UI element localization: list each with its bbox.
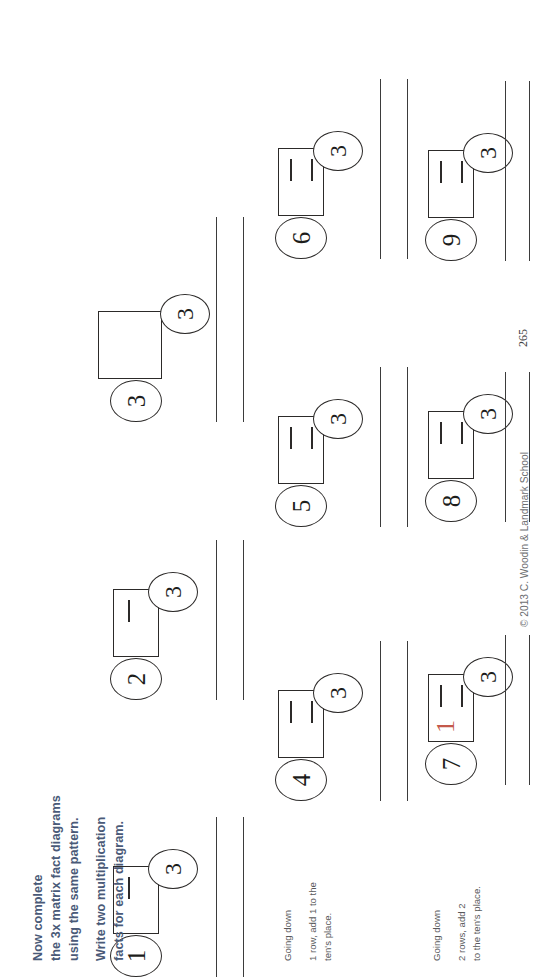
answer-line-1a[interactable]	[216, 817, 217, 977]
multiplier-value: 4	[289, 774, 314, 787]
note-row2: Going down 1 row, add 1 to the ten's pla…	[281, 811, 335, 961]
box-tick	[290, 427, 292, 449]
instruction-spacer	[84, 731, 93, 961]
multiplicand-circle-3: 3	[160, 294, 210, 334]
instruction-line-1: Now complete	[30, 731, 48, 961]
answer-line-5a[interactable]	[380, 367, 381, 527]
multiplicand-value: 3	[476, 408, 500, 420]
multiplier-value: 9	[439, 234, 464, 247]
multiplier-value: 8	[439, 495, 464, 508]
multiplicand-value: 3	[326, 145, 350, 157]
multiplier-value: 6	[289, 232, 314, 245]
multiplier-circle-8: 8	[425, 480, 477, 522]
multiplier-circle-7: 7	[425, 743, 477, 785]
multiplicand-circle-4: 3	[313, 673, 363, 713]
copyright-footer: © 2013 C. Woodin & Landmark School	[519, 452, 530, 627]
instruction-line-4: Write two multiplication	[93, 731, 111, 961]
answer-line-4b[interactable]	[407, 641, 408, 801]
answer-line-3b[interactable]	[243, 217, 244, 422]
box-tick	[440, 685, 442, 707]
note-row2-line-2: 1 row, add 1 to the	[306, 811, 320, 961]
answer-line-3a[interactable]	[216, 217, 217, 422]
box-tick	[128, 600, 130, 622]
answer-line-2b[interactable]	[243, 540, 244, 700]
multiplicand-circle-6: 3	[313, 131, 363, 171]
multiplier-value: 7	[439, 758, 464, 771]
page-number: 265	[516, 329, 531, 347]
multiplicand-value: 3	[326, 687, 350, 699]
box-tick	[461, 685, 463, 707]
multiplicand-value: 3	[326, 413, 350, 425]
answer-line-9a[interactable]	[505, 81, 506, 261]
note-row3-line-1: Going down	[430, 811, 444, 961]
note-row2-line-1: Going down	[281, 811, 295, 961]
multiplier-value: 2	[124, 673, 149, 686]
multiplier-value: 3	[124, 395, 149, 408]
multiplicand-value: 3	[161, 863, 185, 875]
multiplier-circle-2: 2	[110, 658, 162, 700]
note-row2-line-3: ten's place.	[321, 811, 335, 961]
box-tick	[290, 159, 292, 181]
box-tick	[461, 161, 463, 183]
answer-line-6b[interactable]	[407, 79, 408, 259]
answer-line-5b[interactable]	[407, 367, 408, 527]
note-row3-line-2: 2 rows, add 2	[455, 811, 469, 961]
answer-line-8a[interactable]	[505, 372, 506, 522]
multiplicand-circle-1: 3	[148, 849, 198, 889]
note-row3-line-3: to the ten's place.	[470, 811, 484, 961]
worksheet-page: 1 3 2 3 3 3 4 3 5	[0, 0, 544, 977]
instruction-line-2: the 3x matrix fact diagrams	[48, 731, 66, 961]
box-tick	[290, 701, 292, 723]
box-tick	[440, 422, 442, 444]
box-tick	[461, 422, 463, 444]
multiplier-circle-3: 3	[110, 380, 162, 422]
instruction-line-3: using the same pattern.	[66, 731, 84, 961]
answer-line-2a[interactable]	[216, 540, 217, 700]
answer-line-7b[interactable]	[529, 635, 530, 785]
instructions-block: Now complete the 3x matrix fact diagrams…	[30, 731, 128, 961]
answer-line-9b[interactable]	[529, 81, 530, 261]
answer-line-7a[interactable]	[505, 635, 506, 785]
note-row3: Going down 2 rows, add 2 to the ten's pl…	[430, 811, 484, 961]
box-tick	[440, 161, 442, 183]
page-canvas: 1 3 2 3 3 3 4 3 5	[0, 0, 544, 977]
multiplicand-value: 3	[173, 308, 197, 320]
answer-line-6a[interactable]	[380, 79, 381, 259]
handwritten-answer-7: 1	[433, 720, 459, 733]
multiplier-value: 5	[289, 500, 314, 513]
fact-box-3[interactable]	[98, 311, 162, 379]
answer-line-4a[interactable]	[380, 641, 381, 801]
multiplicand-circle-5: 3	[313, 399, 363, 439]
box-tick	[311, 427, 313, 449]
multiplier-circle-4: 4	[275, 759, 327, 801]
multiplicand-value: 3	[476, 671, 500, 683]
multiplicand-value: 3	[476, 147, 500, 159]
multiplier-circle-6: 6	[275, 217, 327, 259]
multiplicand-circle-2: 3	[148, 572, 198, 612]
multiplier-circle-5: 5	[275, 485, 327, 527]
multiplier-circle-9: 9	[425, 219, 477, 261]
instruction-line-5: facts for each diagram.	[111, 731, 129, 961]
answer-line-1b[interactable]	[243, 817, 244, 977]
box-tick	[311, 701, 313, 723]
box-tick	[311, 159, 313, 181]
multiplicand-value: 3	[161, 586, 185, 598]
